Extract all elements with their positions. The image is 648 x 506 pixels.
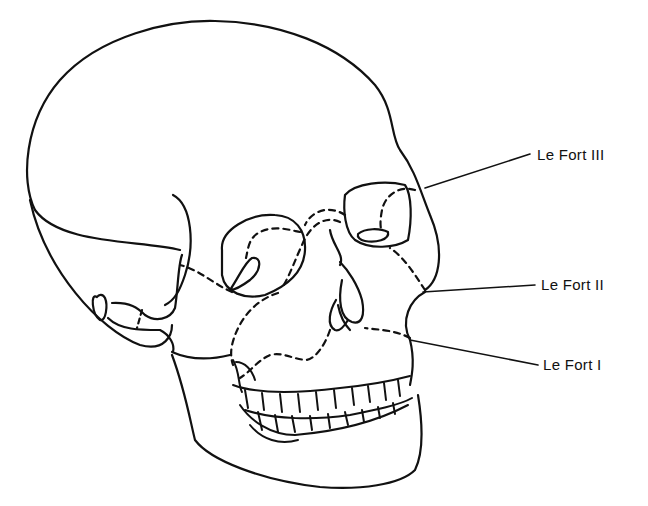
lower-teeth xyxy=(240,398,412,442)
occipital-lower xyxy=(30,200,172,347)
zygomatic-arch-lower xyxy=(108,318,173,352)
upper-teeth xyxy=(233,360,410,412)
le-fort-3-leader xyxy=(425,154,530,188)
nasal-bridge xyxy=(330,230,341,265)
zygomatic-arch-upper xyxy=(112,255,182,319)
le-fort-1-leader xyxy=(410,340,538,365)
mandible xyxy=(172,355,422,488)
ear-opening xyxy=(93,295,107,320)
cranium-outline xyxy=(27,21,439,290)
label-le-fort-3: Le Fort III xyxy=(537,146,605,163)
skull-illustration xyxy=(0,0,648,506)
nasal-cavity xyxy=(340,262,363,323)
le-fort-2-leader xyxy=(423,285,535,292)
le-fort-2-line xyxy=(231,220,425,365)
label-le-fort-1: Le Fort I xyxy=(543,356,602,373)
label-le-fort-2: Le Fort II xyxy=(541,276,604,293)
right-orbit-fissure xyxy=(358,229,388,241)
maxilla xyxy=(172,352,230,358)
right-orbit xyxy=(344,183,410,247)
skull-diagram: Le Fort III Le Fort II Le Fort I xyxy=(0,0,648,506)
le-fort-1-line xyxy=(240,328,410,378)
left-orbit-fissure xyxy=(230,258,259,290)
